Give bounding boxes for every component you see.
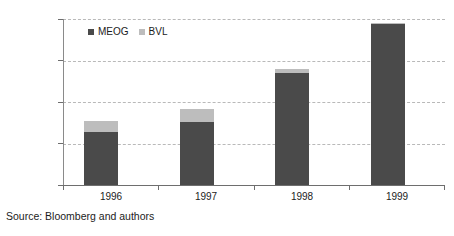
y-tick-mark: [58, 143, 63, 144]
x-tick-label-1999: 1999: [367, 191, 427, 202]
bar-segment-meog-1998: [275, 73, 309, 185]
y-tick-mark: [58, 102, 63, 103]
bar-segment-meog-1996: [84, 132, 118, 185]
legend-label-meog: MEOG: [98, 26, 129, 37]
y-tick-mark: [58, 60, 63, 61]
chart-legend: MEOG BVL: [88, 26, 167, 37]
x-tick-mark-4: [444, 185, 445, 190]
gridline-160000: [63, 19, 445, 20]
y-axis-line: [63, 19, 64, 186]
x-tick-mark-3: [349, 185, 350, 190]
chart-figure: 160 000 120 000 80 000 40 000 0 1996 199…: [0, 0, 454, 236]
bar-segment-meog-1999: [371, 24, 405, 185]
legend-item-bvl: BVL: [139, 26, 168, 37]
legend-swatch-icon-bvl: [139, 29, 145, 35]
bar-group-1996: [84, 121, 118, 185]
legend-label-bvl: BVL: [149, 26, 168, 37]
bar-segment-meog-1997: [180, 122, 214, 185]
x-tick-mark-2: [254, 185, 255, 190]
x-tick-mark-0: [63, 185, 64, 190]
plot-area: [63, 19, 445, 185]
source-caption: Source: Bloomberg and authors: [6, 210, 154, 222]
x-tick-label-1998: 1998: [272, 191, 332, 202]
legend-swatch-icon-meog: [88, 29, 94, 35]
x-tick-label-1996: 1996: [81, 191, 141, 202]
bar-group-1998: [275, 69, 309, 185]
bar-segment-bvl-1997: [180, 109, 214, 122]
bar-group-1997: [180, 109, 214, 185]
y-tick-mark: [58, 19, 63, 20]
bar-segment-bvl-1996: [84, 121, 118, 132]
legend-item-meog: MEOG: [88, 26, 129, 37]
x-tick-mark-1: [158, 185, 159, 190]
x-tick-label-1997: 1997: [176, 191, 236, 202]
bar-group-1999: [371, 23, 405, 185]
